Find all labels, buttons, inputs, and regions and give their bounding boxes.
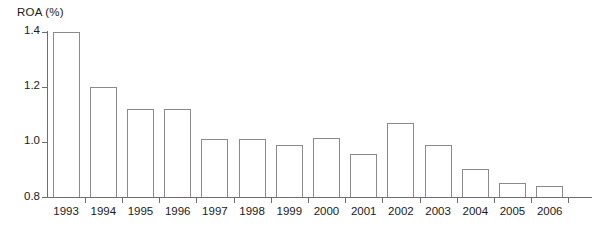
x-axis-tick-label: 1999 [271, 205, 308, 217]
bar-2000 [313, 138, 340, 197]
x-axis-tick [196, 198, 197, 203]
x-axis-tick-label: 2005 [494, 205, 531, 217]
x-axis-tick [420, 198, 421, 203]
x-axis-tick-label: 2001 [345, 205, 382, 217]
x-axis-tick [568, 198, 569, 203]
y-axis-tick [42, 87, 48, 88]
bar-1994 [90, 87, 117, 197]
bar-2005 [499, 183, 526, 197]
y-axis-tick-label-text: 1.0 [24, 134, 40, 146]
bar-2006 [536, 186, 563, 197]
y-axis-tick [42, 32, 48, 33]
y-axis-tick-label-text: 1.2 [24, 79, 40, 91]
x-axis-tick [345, 198, 346, 203]
x-axis-tick [382, 198, 383, 203]
bar-1999 [276, 145, 303, 197]
x-axis-tick-label: 2003 [420, 205, 457, 217]
x-axis-tick [271, 198, 272, 203]
x-axis-tick [85, 198, 86, 203]
x-axis-tick-label: 1995 [122, 205, 159, 217]
y-axis-tick-label: 1.4 [0, 24, 40, 38]
y-axis-tick [42, 197, 48, 198]
bar-1995 [127, 109, 154, 197]
bar-1997 [201, 139, 228, 197]
bar-1993 [53, 32, 80, 198]
bar-2002 [387, 123, 414, 197]
x-axis-tick-label: 2000 [308, 205, 345, 217]
bar-1996 [164, 109, 191, 197]
bar-2003 [425, 145, 452, 197]
x-axis-tick [122, 198, 123, 203]
bar-1998 [239, 139, 266, 197]
x-axis-tick-label: 2002 [382, 205, 419, 217]
bar-2004 [462, 169, 489, 197]
x-axis-tick [308, 198, 309, 203]
x-axis-tick-label: 2006 [531, 205, 568, 217]
plot-area: 1.41.21.00.8 199319941995199619971998199… [0, 0, 600, 230]
bar-2001 [350, 154, 377, 197]
x-axis-tick [234, 198, 235, 203]
x-axis-tick [457, 198, 458, 203]
y-axis-tick-label-text: 1.4 [24, 24, 40, 36]
x-axis-tick-label: 1998 [234, 205, 271, 217]
x-axis-tick [494, 198, 495, 203]
x-axis-tick [531, 198, 532, 203]
x-axis-tick-label: 1994 [85, 205, 122, 217]
x-axis-tick-label: 2004 [457, 205, 494, 217]
y-axis-tick [42, 142, 48, 143]
y-axis-tick-label: 0.8 [0, 190, 40, 204]
y-axis-tick-label: 1.2 [0, 79, 40, 93]
y-axis-line [47, 31, 48, 198]
x-axis-tick-label: 1993 [48, 205, 85, 217]
y-axis-tick-label: 1.0 [0, 134, 40, 148]
x-axis-tick-label: 1997 [196, 205, 233, 217]
x-axis-tick [159, 198, 160, 203]
x-axis-tick-label: 1996 [159, 205, 196, 217]
roa-bar-chart: ROA (%) 1.41.21.00.8 1993199419951996199… [0, 0, 600, 230]
y-axis-tick-label-text: 0.8 [24, 190, 40, 202]
x-axis-line [47, 197, 592, 198]
